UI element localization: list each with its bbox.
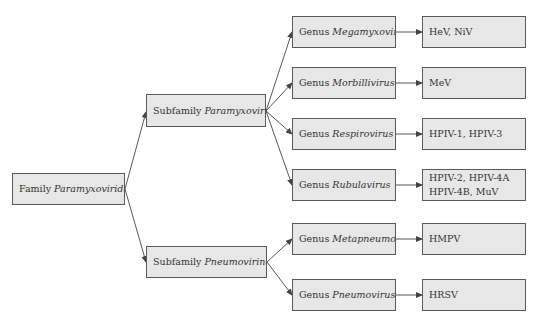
- genus-name: Megamyxovirus: [332, 26, 396, 37]
- arrow-paramyxovirinae-to-megamyxovirus: [266, 32, 292, 111]
- virus-label-line-2: HPIV-4B, MuV: [429, 185, 525, 199]
- virus-node-pneumovirus: HRSV: [422, 279, 526, 311]
- virus-label: HeV, NiV: [429, 26, 525, 38]
- subfamily-name: Paramyxovirinae: [204, 105, 266, 116]
- genus-node-megamyxovirus: Genus Megamyxovirus: [292, 16, 396, 48]
- genus-name: Respirovirus: [332, 128, 393, 139]
- virus-node-megamyxovirus: HeV, NiV: [422, 16, 526, 48]
- genus-node-morbillivirus: Genus Morbillivirus: [292, 67, 396, 99]
- virus-node-respirovirus: HPIV-1, HPIV-3: [422, 118, 526, 150]
- genus-name: Morbillivirus: [332, 77, 394, 88]
- arrow-pneumovirinae-to-metapneumovirus: [267, 239, 292, 262]
- genus-node-rubulavirus: Genus Rubulavirus: [292, 169, 396, 201]
- genus-prefix: Genus: [299, 233, 329, 244]
- arrow-paramyxovirinae-to-rubulavirus: [266, 111, 292, 185]
- family-name: Paramyxoviridae: [54, 183, 125, 194]
- genus-name: Pneumovirus: [332, 289, 395, 300]
- subfamily-prefix: Subfamily: [153, 105, 201, 116]
- subfamily-name: Pneumovirinae: [204, 256, 267, 267]
- virus-node-rubulavirus: HPIV-2, HPIV-4A HPIV-4B, MuV: [422, 169, 526, 201]
- genus-name: Metapneumovirus: [332, 233, 396, 244]
- subfamily-node-pneumovirinae: Subfamily Pneumovirinae: [146, 246, 267, 278]
- genus-prefix: Genus: [299, 128, 329, 139]
- virus-label: HMPV: [429, 233, 525, 245]
- genus-node-metapneumovirus: Genus Metapneumovirus: [292, 223, 396, 255]
- virus-node-metapneumovirus: HMPV: [422, 223, 526, 255]
- family-node: Family Paramyxoviridae: [12, 173, 125, 205]
- subfamily-prefix: Subfamily: [153, 256, 201, 267]
- arrow-family-to-pneumovirinae: [125, 189, 146, 262]
- virus-label: MeV: [429, 77, 525, 89]
- genus-node-respirovirus: Genus Respirovirus: [292, 118, 396, 150]
- virus-label: HRSV: [429, 289, 525, 301]
- virus-label: HPIV-1, HPIV-3: [429, 128, 525, 140]
- subfamily-node-paramyxovirinae: Subfamily Paramyxovirinae: [146, 94, 266, 127]
- genus-prefix: Genus: [299, 26, 329, 37]
- family-prefix: Family: [19, 183, 51, 194]
- arrow-paramyxovirinae-to-morbillivirus: [266, 83, 292, 111]
- genus-prefix: Genus: [299, 77, 329, 88]
- arrow-paramyxovirinae-to-respirovirus: [266, 111, 292, 134]
- virus-label-line-1: HPIV-2, HPIV-4A: [429, 171, 525, 185]
- virus-node-morbillivirus: MeV: [422, 67, 526, 99]
- arrow-pneumovirinae-to-pneumovirus: [267, 262, 292, 295]
- genus-prefix: Genus: [299, 289, 329, 300]
- genus-prefix: Genus: [299, 179, 329, 190]
- genus-name: Rubulavirus: [332, 179, 390, 190]
- genus-node-pneumovirus: Genus Pneumovirus: [292, 279, 396, 311]
- connector-arrows: [0, 0, 539, 322]
- arrow-family-to-paramyxovirinae: [125, 112, 146, 189]
- taxonomy-diagram: Family Paramyxoviridae Subfamily Paramyx…: [0, 0, 539, 322]
